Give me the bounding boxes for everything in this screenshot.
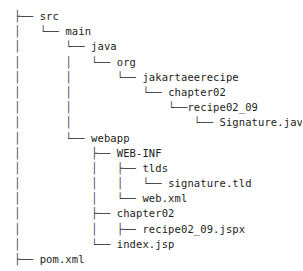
tree-row: │ ├── WEB-INF: [14, 146, 302, 161]
tree-node-label: signature.tld: [168, 177, 251, 189]
tree-row: │ │ └── org: [14, 55, 302, 70]
tree-branch-connector: ├──: [14, 253, 40, 265]
tree-row: │ └── webapp: [14, 131, 302, 146]
tree-branch-connector: │ │ └──: [14, 192, 142, 204]
tree-branch-connector: │ ├──: [14, 147, 117, 159]
tree-row: │ └── java: [14, 39, 302, 54]
tree-row: │ │ └── chapter02: [14, 85, 302, 100]
tree-branch-connector: │ │ └──: [14, 86, 168, 98]
tree-branch-connector: │ └──: [14, 40, 91, 52]
tree-row: │ │ └──recipe02_09: [14, 100, 302, 115]
tree-row: │ └── index.jsp: [14, 237, 302, 252]
tree-branch-connector: │ │ └──: [14, 56, 117, 68]
tree-node-label: index.jsp: [117, 238, 175, 250]
tree-branch-connector: │ │ └──: [14, 116, 220, 128]
tree-branch-connector: │ │ ├──: [14, 223, 142, 235]
tree-row: │ │ └── jakartaeerecipe: [14, 70, 302, 85]
tree-node-label: Signature.java: [220, 116, 303, 128]
tree-node-label: jakartaeerecipe: [142, 71, 238, 83]
tree-branch-connector: │ └──: [14, 25, 65, 37]
tree-node-label: src: [40, 10, 59, 22]
tree-node-label: WEB-INF: [117, 147, 162, 159]
tree-branch-connector: │ │ │ └──: [14, 177, 168, 189]
tree-row: │ ├── chapter02: [14, 206, 302, 221]
tree-branch-connector: │ └──: [14, 132, 91, 144]
tree-node-label: tlds: [142, 162, 168, 174]
tree-row: │ │ └── web.xml: [14, 191, 302, 206]
tree-node-label: java: [91, 40, 117, 52]
tree-branch-connector: │ │ ├──: [14, 162, 142, 174]
tree-node-label: chapter02: [117, 207, 175, 219]
tree-node-label: recipe02_09.jspx: [142, 223, 245, 235]
tree-node-label: chapter02: [168, 86, 226, 98]
tree-node-label: pom.xml: [40, 253, 85, 265]
tree-row: │ └── main: [14, 24, 302, 39]
tree-row: │ │ └── Signature.java: [14, 115, 302, 130]
tree-node-label: webapp: [91, 132, 130, 144]
tree-branch-connector: │ │ └──: [14, 71, 142, 83]
tree-branch-connector: │ ├──: [14, 207, 117, 219]
tree-node-label: recipe02_09: [187, 101, 258, 113]
tree-row: ├── src: [14, 9, 302, 24]
tree-branch-connector: ├──: [14, 10, 40, 22]
tree-row: ├── pom.xml: [14, 252, 302, 267]
tree-row: │ │ ├── tlds: [14, 161, 302, 176]
directory-tree-diagram: ├── src│ └── main│ └── java│ │ └── org│ …: [0, 0, 302, 271]
tree-node-label: org: [117, 56, 136, 68]
tree-node-label: main: [65, 25, 91, 37]
tree-branch-connector: │ │ └──: [14, 101, 187, 113]
tree-row: │ │ ├── recipe02_09.jspx: [14, 222, 302, 237]
tree-row: │ │ │ └── signature.tld: [14, 176, 302, 191]
tree-branch-connector: │ └──: [14, 238, 117, 250]
tree-node-label: web.xml: [142, 192, 187, 204]
directory-tree-text: ├── src│ └── main│ └── java│ │ └── org│ …: [14, 9, 302, 267]
